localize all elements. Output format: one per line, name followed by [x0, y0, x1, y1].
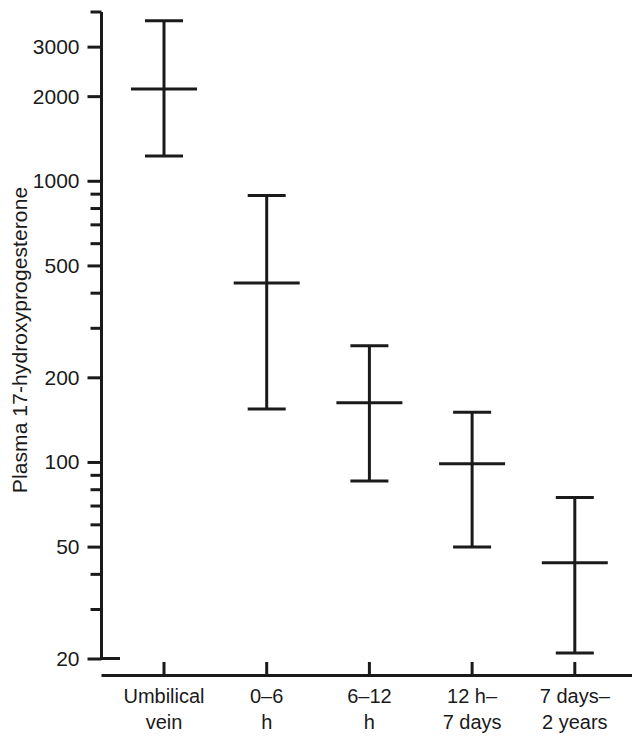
y-tick-label: 200 [44, 366, 79, 389]
y-tick-label: 100 [44, 450, 79, 473]
y-tick-label: 50 [56, 535, 79, 558]
y-tick-label: 1000 [33, 169, 80, 192]
y-axis-major-ticks [88, 47, 102, 659]
x-tick-label: 12 h–7 days [443, 685, 502, 733]
x-axis-ticks [164, 662, 575, 676]
x-tick-label: 7 days–2 years [540, 685, 611, 733]
x-tick-label: 0–6h [250, 685, 283, 733]
x-axis-tick-labels: Umbilicalvein0–6h6–12h12 h–7 days7 days–… [123, 685, 610, 733]
y-tick-label: 2000 [33, 85, 80, 108]
y-tick-label: 500 [44, 254, 79, 277]
error-bar [336, 346, 402, 481]
y-tick-label: 3000 [33, 35, 80, 58]
error-bar [542, 498, 608, 653]
x-tick-label: Umbilicalvein [123, 685, 204, 733]
error-bar-series [131, 21, 608, 653]
y-axis-tick-labels: 3000200010005002001005020 [33, 35, 80, 670]
x-tick-label: 6–12h [347, 685, 392, 733]
plot-area: 3000200010005002001005020 Umbilicalvein0… [0, 0, 637, 744]
chart-figure: Plasma 17-hydroxyprogesterone 3000200010… [0, 0, 637, 744]
y-tick-label: 20 [56, 647, 79, 670]
error-bar [234, 196, 300, 409]
error-bar [439, 412, 505, 547]
error-bar [131, 21, 197, 156]
y-axis-minor-ticks [91, 12, 102, 609]
